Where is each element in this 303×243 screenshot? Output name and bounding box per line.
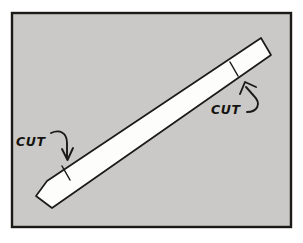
cut-strip-diagram: CUT CUT	[0, 0, 303, 243]
cut-label-right: CUT	[211, 102, 242, 117]
figure-container: CUT CUT	[0, 0, 303, 243]
cut-label-left: CUT	[16, 134, 47, 149]
